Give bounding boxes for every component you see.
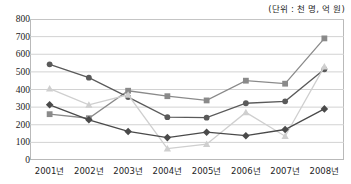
data-point-circle: [47, 61, 53, 67]
y-axis-tick-label: 700: [2, 32, 30, 42]
y-axis-tick-label: 400: [2, 85, 30, 95]
data-point-triangle: [321, 63, 328, 70]
x-axis-tick-label: 2008년: [310, 164, 340, 176]
x-axis-tick-label: 2004년: [153, 164, 183, 176]
data-point-circle: [86, 75, 92, 81]
data-point-square: [47, 111, 53, 117]
data-point-square: [321, 35, 327, 41]
data-point-diamond: [164, 134, 172, 142]
data-point-circle: [164, 114, 170, 120]
data-point-circle: [204, 115, 210, 121]
y-axis-tick-label: 200: [2, 120, 30, 130]
data-point-triangle: [46, 85, 53, 92]
y-axis-tick-label: 300: [2, 102, 30, 112]
data-point-triangle: [242, 109, 249, 116]
data-point-diamond: [242, 132, 250, 140]
data-point-diamond: [124, 128, 132, 136]
y-axis-tick-label: 100: [2, 137, 30, 147]
data-point-diamond: [203, 128, 211, 136]
y-axis-tick-label: 800: [2, 14, 30, 24]
y-axis: 8007006005004003002001000: [0, 0, 30, 184]
x-axis-tick-label: 2007년: [270, 164, 300, 176]
x-axis-tick-label: 2001년: [35, 164, 65, 176]
data-point-circle: [243, 100, 249, 106]
y-axis-tick-label: 500: [2, 67, 30, 77]
data-point-diamond: [321, 105, 329, 113]
x-axis-tick-label: 2006년: [231, 164, 261, 176]
x-axis: 2001년2002년2003년2004년2005년2006년2007년2008년: [0, 162, 351, 182]
x-axis-tick-label: 2003년: [113, 164, 143, 176]
series-circle: [47, 61, 328, 120]
data-point-square: [282, 81, 288, 87]
y-axis-tick-label: 600: [2, 49, 30, 59]
x-axis-tick-label: 2002년: [74, 164, 104, 176]
data-point-circle: [282, 98, 288, 104]
data-point-square: [164, 93, 170, 99]
data-point-triangle: [282, 133, 289, 140]
line-chart: (단위 : 천 명, 억 원) 800700600500400300200100…: [0, 0, 351, 184]
x-axis-tick-label: 2005년: [192, 164, 222, 176]
data-point-square: [243, 78, 249, 84]
plot-area: [30, 19, 344, 160]
data-point-square: [204, 98, 210, 104]
unit-note: (단위 : 천 명, 억 원): [268, 2, 345, 14]
